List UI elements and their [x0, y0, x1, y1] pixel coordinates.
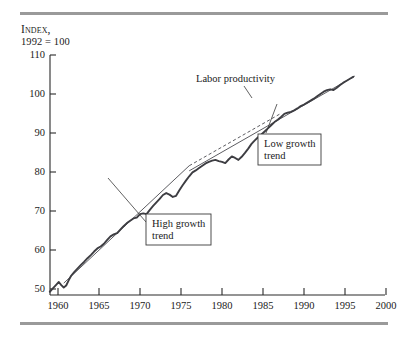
- high-growth-callout-line2: trend: [152, 230, 174, 241]
- y-tick-label: 70: [35, 205, 46, 216]
- high-growth-trend-callout: High growth trend: [146, 214, 211, 245]
- x-axis-ticks: [58, 288, 386, 295]
- x-tick-label: 1975: [171, 300, 192, 311]
- low-growth-leader-line: [266, 104, 277, 133]
- y-tick-label: 110: [30, 49, 45, 60]
- x-tick-label: 1970: [130, 300, 151, 311]
- y-tick-label: 90: [35, 127, 46, 138]
- high-growth-callout-line1: High growth: [152, 218, 206, 229]
- low-growth-trend-callout: Low growth trend: [258, 134, 321, 165]
- y-tick-label: 60: [35, 244, 46, 255]
- labor-productivity-series: [50, 77, 353, 292]
- y-tick-label: 100: [29, 88, 45, 99]
- x-tick-label: 1995: [335, 300, 356, 311]
- low-growth-callout-line2: trend: [264, 150, 286, 161]
- x-tick-label: 1980: [212, 300, 233, 311]
- figure-container: Index, 1992 = 100 110 100 90 80 70 60 50: [0, 0, 408, 337]
- y-axis-ticks: [50, 55, 56, 289]
- labor-productivity-label: Labor productivity: [196, 73, 276, 84]
- x-tick-label: 1965: [89, 300, 110, 311]
- labor-productivity-leader-line: [244, 86, 252, 98]
- high-growth-leader-line: [108, 178, 146, 222]
- chart-plot: 110 100 90 80 70 60 50 1960 1965 1970 19…: [0, 0, 408, 337]
- low-growth-callout-line1: Low growth: [264, 138, 316, 149]
- x-tick-label: 1990: [294, 300, 315, 311]
- x-axis-tick-labels: 1960 1965 1970 1975 1980 1985 1990 1995 …: [48, 300, 397, 311]
- x-tick-label: 1985: [253, 300, 274, 311]
- x-tick-label: 1960: [48, 300, 69, 311]
- x-tick-label: 2000: [376, 300, 397, 311]
- y-tick-label: 50: [35, 283, 46, 294]
- y-tick-label: 80: [35, 166, 46, 177]
- y-axis-tick-labels: 110 100 90 80 70 60 50: [29, 49, 45, 294]
